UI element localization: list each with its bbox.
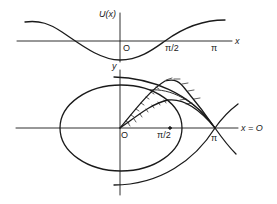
top-tick-pi: π bbox=[211, 44, 217, 53]
trajectory-shallow bbox=[120, 100, 215, 128]
bottom-tick-pi: π bbox=[211, 134, 217, 143]
top-xlabel: x bbox=[235, 37, 240, 46]
half-pi-dot bbox=[169, 127, 172, 130]
top-ylabel: U(x) bbox=[99, 10, 116, 19]
bottom-origin-label: O bbox=[121, 131, 128, 140]
potential-curve bbox=[25, 20, 225, 60]
bottom-ylabel: y bbox=[112, 62, 117, 71]
top-tick-half-pi: π/2 bbox=[165, 44, 179, 53]
trajectory-steep bbox=[120, 80, 215, 128]
trajectory-mid bbox=[150, 90, 215, 128]
axis-annotation: x = O bbox=[241, 124, 263, 133]
phase-portrait-diagram bbox=[0, 0, 277, 204]
bottom-tick-half-pi: π/2 bbox=[157, 131, 171, 140]
top-origin-label: O bbox=[123, 44, 130, 53]
